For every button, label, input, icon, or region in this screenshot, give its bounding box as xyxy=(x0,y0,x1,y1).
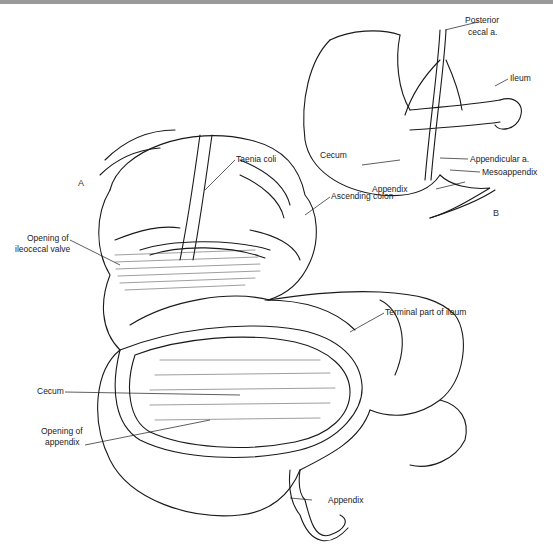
panel-a-drawing xyxy=(98,130,467,541)
label-opening-ileocecal-valve-line1: Opening of xyxy=(27,233,69,244)
label-taenia-coli: Taenia coli xyxy=(236,154,276,165)
panel-label-a: A xyxy=(78,178,84,188)
label-posterior-cecal-line2: cecal a. xyxy=(468,27,497,38)
label-terminal-ileum: Terminal part of ileum xyxy=(385,307,466,318)
label-appendix-b: Appendix xyxy=(372,184,407,195)
panel-label-b: B xyxy=(493,208,499,218)
label-posterior-cecal-line1: Posterior xyxy=(465,15,499,26)
label-appendicular-artery: Appendicular a. xyxy=(470,154,529,165)
label-opening-appendix-line2: appendix xyxy=(45,437,80,448)
panel-b-drawing xyxy=(304,30,522,218)
label-opening-appendix-line1: Opening of xyxy=(41,426,83,437)
label-appendix-a: Appendix xyxy=(328,495,363,506)
label-cecum-a: Cecum xyxy=(37,386,64,397)
label-cecum-b: Cecum xyxy=(320,150,347,161)
anatomy-illustration xyxy=(0,0,553,557)
label-opening-ileocecal-valve-line2: ileocecal valve xyxy=(15,244,70,255)
label-ileum-b: Ileum xyxy=(510,73,531,84)
label-mesoappendix: Mesoappendix xyxy=(482,167,537,178)
